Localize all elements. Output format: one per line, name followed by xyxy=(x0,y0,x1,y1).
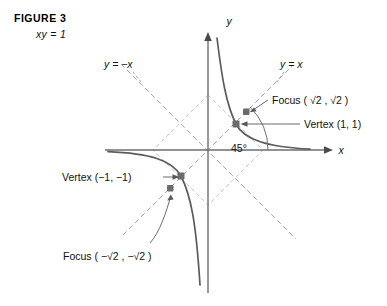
focus-q1-label: Focus ( √2 , √2 ) xyxy=(272,94,348,106)
leader-focus-q3 xyxy=(150,199,170,243)
leader-vertex-q1-arrowhead xyxy=(241,121,248,127)
leader-focus-q3-arrowhead xyxy=(167,195,173,201)
angle-label-45: 45° xyxy=(231,142,247,154)
marker-focus-q1 xyxy=(243,109,250,116)
leader-focus-q1 xyxy=(253,100,268,110)
asymptote-left-label: y = −x xyxy=(103,58,133,70)
x-axis-arrowhead xyxy=(324,146,333,154)
asymptote-right-label: y = x xyxy=(279,58,303,70)
marker-focus-q3 xyxy=(167,185,174,192)
marker-vertex-q3 xyxy=(178,173,185,180)
vertex-q3-label: Vertex (−1, −1) xyxy=(62,171,131,183)
x-axis-label: x xyxy=(337,144,344,156)
y-axis-arrowhead xyxy=(204,32,212,41)
focus-q3-label: Focus ( −√2 , −√2 ) xyxy=(63,250,152,262)
marker-vertex-q1 xyxy=(233,121,240,128)
y-axis-label: y xyxy=(225,15,232,27)
leader-asymptote-right xyxy=(277,72,284,82)
vertex-q1-label: Vertex (1, 1) xyxy=(304,118,361,130)
hyperbola-plot: y x y = −x y = x 45° Focus ( √2 , √2 ) V… xyxy=(0,0,387,306)
figure-root: FIGURE 3 xy = 1 xyxy=(0,0,387,306)
